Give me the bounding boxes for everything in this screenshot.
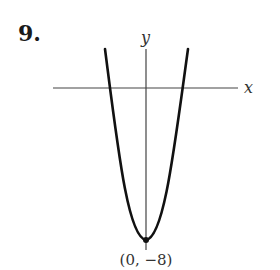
x-axis-label: x [244, 78, 253, 97]
vertex-point [143, 237, 149, 243]
vertex-label: (0, −8) [120, 251, 173, 269]
y-axis-label: y [140, 28, 151, 47]
problem-number: 9. [18, 20, 41, 46]
parabola-diagram: 9. x y (0, −8) [0, 0, 280, 270]
